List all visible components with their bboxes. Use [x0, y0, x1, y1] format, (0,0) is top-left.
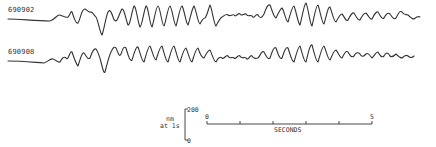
amplitude-top-label: 200	[187, 106, 199, 114]
time-start-label: 0	[205, 113, 209, 121]
amplitude-unit-line2: at 1s	[160, 122, 180, 130]
seismogram-trace-690908	[8, 45, 414, 73]
seismogram-trace-690902	[8, 3, 420, 35]
amplitude-bottom-label: 0	[187, 137, 191, 145]
time-axis	[207, 121, 372, 124]
seismogram-figure: 200 0 nm at 1s 0 5 SECONDS	[0, 0, 436, 147]
time-end-label: 5	[370, 113, 374, 121]
time-axis-label: SECONDS	[274, 126, 301, 134]
